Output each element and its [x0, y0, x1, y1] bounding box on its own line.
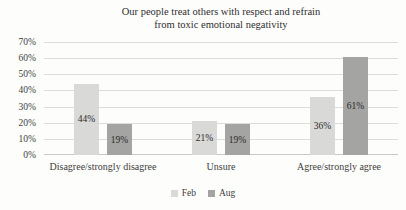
legend-item-feb: Feb — [171, 188, 196, 198]
plot-area: 44% 19% 21% 19% 36% 61% — [44, 42, 398, 155]
legend-item-aug: Aug — [208, 188, 235, 198]
y-tick-label: 0% — [23, 150, 36, 160]
y-tick-label: 40% — [19, 85, 36, 95]
legend-label-aug: Aug — [219, 188, 235, 198]
data-label-aug-disagree: 19% — [111, 135, 128, 145]
chart-legend: Feb Aug — [0, 188, 406, 198]
bar-chart-figure: Our people treat others with respect and… — [0, 0, 406, 210]
y-tick-label: 70% — [19, 37, 36, 47]
y-tick-label: 20% — [19, 118, 36, 128]
legend-swatch-feb — [171, 190, 178, 197]
legend-swatch-aug — [208, 190, 215, 197]
category-label-disagree: Disagree/strongly disagree — [44, 161, 162, 172]
bar-groups: 44% 19% 21% 19% 36% 61% — [44, 42, 398, 155]
chart-title-line-2: from toxic emotional negativity — [40, 18, 402, 31]
bar-aug-unsure: 19% — [225, 124, 250, 155]
chart-title-line-1: Our people treat others with respect and… — [40, 5, 402, 18]
y-tick-label: 10% — [19, 134, 36, 144]
bar-aug-disagree: 19% — [107, 124, 132, 155]
data-label-aug-unsure: 19% — [229, 135, 246, 145]
bar-feb-agree: 36% — [310, 97, 335, 155]
legend-label-feb: Feb — [182, 188, 196, 198]
data-label-feb-agree: 36% — [314, 121, 331, 131]
bar-group-unsure: 21% 19% — [162, 42, 280, 155]
y-axis-labels: 0%10%20%30%40%50%60%70% — [0, 42, 36, 155]
data-label-feb-unsure: 21% — [196, 133, 213, 143]
y-tick-label: 50% — [19, 69, 36, 79]
data-label-feb-disagree: 44% — [78, 114, 95, 124]
category-label-unsure: Unsure — [162, 161, 280, 172]
bar-group-disagree: 44% 19% — [44, 42, 162, 155]
bar-feb-disagree: 44% — [74, 84, 99, 155]
y-tick-label: 60% — [19, 53, 36, 63]
data-label-aug-agree: 61% — [347, 101, 364, 111]
x-axis-category-labels: Disagree/strongly disagree Unsure Agree/… — [44, 161, 398, 172]
bar-aug-agree: 61% — [343, 57, 368, 155]
category-label-agree: Agree/strongly agree — [280, 161, 398, 172]
y-tick-label: 30% — [19, 102, 36, 112]
chart-title: Our people treat others with respect and… — [40, 5, 402, 31]
bar-feb-unsure: 21% — [192, 121, 217, 155]
bar-group-agree: 36% 61% — [280, 42, 398, 155]
